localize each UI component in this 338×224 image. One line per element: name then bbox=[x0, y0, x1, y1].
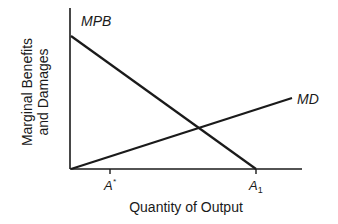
y-axis-title-line-1: Marginal Benefits bbox=[19, 38, 35, 146]
x-axis-title: Quantity of Output bbox=[129, 199, 243, 215]
mpb-line bbox=[71, 36, 256, 169]
mpb-label: MPB bbox=[81, 13, 111, 29]
y-axis-title-line-2: and Damages bbox=[35, 48, 51, 135]
md-label: MD bbox=[297, 91, 319, 107]
md-line bbox=[71, 98, 292, 169]
tick-label-astar: A* bbox=[103, 177, 117, 193]
y-axis-title: Marginal Benefits and Damages bbox=[19, 38, 51, 146]
chart: MPB MD A* A1 Quantity of Output Marginal… bbox=[0, 0, 338, 224]
tick-label-a1: A1 bbox=[248, 178, 263, 195]
